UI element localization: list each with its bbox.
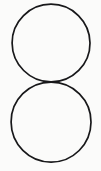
figure-canvas: Two tangent circles Two unfilled outline… [0,0,101,171]
circles-diagram: Two tangent circles Two unfilled outline… [0,0,101,171]
bottom-circle [11,82,91,162]
top-circle [12,4,90,82]
